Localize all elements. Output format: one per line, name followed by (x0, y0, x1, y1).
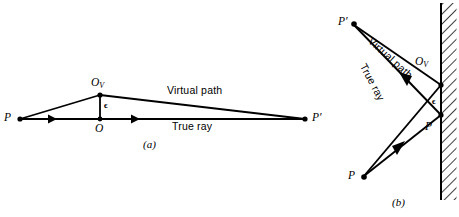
panel-a-label-OV: OV (91, 77, 104, 90)
panel-b-label-OV: OV (415, 56, 428, 69)
panel-b-point-Pprime-dot (351, 21, 357, 27)
figure-vector-canvas (0, 0, 459, 217)
panel-a-label-P-prime: P′ (312, 112, 322, 124)
panel-b-diagram (351, 3, 456, 200)
panel-a-label-epsilon: ϵ (104, 101, 108, 110)
panel-b-label-P: P (348, 170, 355, 182)
panel-b-label-O: P (425, 121, 432, 133)
panel-a-label-P: P (4, 112, 11, 124)
panel-a-virtual-path-right-segment (100, 95, 305, 119)
panel-a-point-Pprime-dot (302, 116, 307, 121)
panel-a-label-virtual-path: Virtual path (167, 85, 222, 96)
panel-b-label-P-prime: P′ (338, 16, 348, 28)
panel-b-label-epsilon: ϵ (432, 97, 436, 106)
panel-a-point-O-dot (98, 117, 103, 122)
panel-a-label-true-ray: True ray (172, 121, 212, 132)
panel-a-label-O: O (95, 123, 103, 135)
panel-b-point-OV-dot (438, 82, 443, 87)
panel-b-caption: (b) (392, 197, 405, 208)
panel-a-arrowhead-right (131, 115, 140, 124)
panel-b-point-P-dot (361, 174, 367, 180)
panel-b-point-O-dot (438, 112, 443, 117)
optics-figure: P OV O P′ ϵ Virtual path True ray (a) P′… (0, 0, 459, 217)
panel-a-virtual-path-left-segment (20, 95, 100, 119)
panel-a-diagram (17, 92, 307, 123)
panel-a-arrowhead-left (48, 115, 57, 124)
panel-a-point-OV-dot (97, 92, 102, 97)
panel-a-caption: (a) (143, 139, 156, 150)
panel-a-point-P-dot (17, 116, 22, 121)
panel-b-mirror-hatching (442, 3, 457, 200)
